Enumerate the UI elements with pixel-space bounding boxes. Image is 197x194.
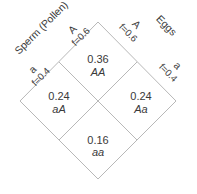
cell-aA: 0.24 aA bbox=[48, 90, 69, 115]
cell-genotype: aa bbox=[92, 146, 104, 158]
sperm-axis-title: Sperm (Pollen) bbox=[12, 0, 70, 56]
cell-value: 0.24 bbox=[130, 90, 151, 102]
cell-genotype: aA bbox=[52, 103, 65, 115]
punnett-square: Sperm (Pollen) Eggs A f=0.6 a f=0.4 A f=… bbox=[0, 0, 197, 194]
cell-Aa: 0.24 Aa bbox=[130, 90, 151, 115]
cell-genotype: Aa bbox=[133, 103, 147, 115]
cell-value: 0.36 bbox=[87, 53, 108, 65]
cell-value: 0.16 bbox=[87, 134, 108, 146]
cell-AA: 0.36 AA bbox=[87, 53, 108, 78]
cell-value: 0.24 bbox=[48, 90, 69, 102]
cell-genotype: AA bbox=[90, 66, 106, 78]
eggs-axis-title: Eggs bbox=[154, 12, 179, 37]
cell-aa: 0.16 aa bbox=[87, 134, 108, 158]
